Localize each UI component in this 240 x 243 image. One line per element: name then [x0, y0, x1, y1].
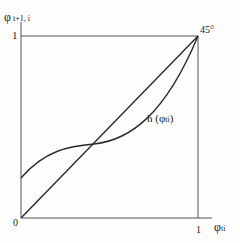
x-axis-symbol: φ	[214, 220, 221, 234]
x-axis-label: φti	[214, 221, 225, 233]
y-axis-subscript: t+1, i	[13, 14, 30, 23]
y-axis-symbol: φ	[4, 10, 11, 24]
angle-annotation: 45°	[200, 25, 214, 35]
curve-label-prefix: h (	[147, 112, 159, 124]
x-axis-subscript: ti	[221, 224, 225, 233]
h-curve	[21, 36, 198, 178]
curve-label: h (φti)	[147, 113, 173, 124]
origin-label: 0	[13, 218, 18, 228]
x-tick-one: 1	[196, 225, 201, 235]
y-axis-label: φt+1, i	[4, 11, 30, 23]
diagonal-45-line	[21, 36, 198, 218]
diagram-canvas	[0, 0, 240, 243]
y-tick-one: 1	[12, 30, 18, 41]
curve-label-suffix: )	[170, 112, 174, 124]
